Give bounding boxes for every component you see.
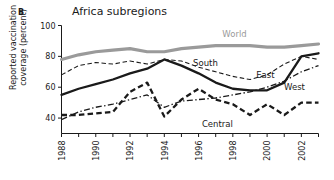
- series-label-south: South: [193, 58, 218, 68]
- y-tick-label: 60: [45, 83, 55, 92]
- series-label-west: West: [284, 82, 306, 92]
- series-label-world: World: [222, 29, 246, 39]
- series-label-east: East: [256, 70, 275, 80]
- series-line-central: [62, 83, 319, 117]
- y-tick-label: 80: [45, 52, 55, 61]
- x-tick-label: 1990: [92, 141, 101, 161]
- x-tick-label: 1998: [229, 141, 238, 161]
- series-line-east: [62, 53, 319, 95]
- chart-axes: [58, 26, 319, 134]
- x-tick-label: 1988: [58, 141, 67, 161]
- figure-panel-b: B Africa subregions Reported vaccination…: [0, 0, 334, 180]
- data-series-group: [62, 44, 319, 120]
- x-tick-label: 1996: [195, 141, 204, 161]
- y-tick-label: 100: [40, 22, 55, 31]
- x-tick-label: 1992: [126, 141, 135, 161]
- line-chart-plot: 406080100 198819901992199419961998200020…: [0, 0, 334, 180]
- x-axis-ticks: [62, 134, 319, 138]
- x-tick-label: 2002: [298, 141, 307, 161]
- series-label-central: Central: [202, 119, 233, 129]
- y-axis-tick-labels: 406080100: [40, 22, 55, 124]
- x-tick-label: 1994: [161, 141, 170, 161]
- x-axis-tick-labels: 19881990199219941996199820002002: [58, 141, 307, 161]
- y-tick-label: 40: [45, 114, 55, 123]
- x-tick-label: 2000: [263, 141, 272, 161]
- series-line-south: [62, 56, 319, 79]
- series-line-world: [62, 44, 319, 59]
